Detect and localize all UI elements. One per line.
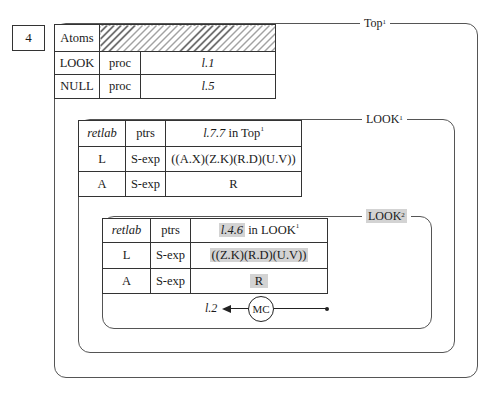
return-ref: l.7.7 [203,126,225,140]
table-row: A S-exp R [103,269,328,294]
mc-label: MC [252,303,269,315]
atom-type: proc [100,75,141,99]
figure-number-box: 4 [12,25,45,51]
atom-name: NULL [55,75,100,99]
var-name: L [79,147,126,172]
atom-type: proc [100,52,141,75]
var-value-highlighted: ((Z.K)(R.D)(U.V)) [210,248,309,262]
var-name: A [103,269,151,294]
ptrs-header: ptrs [151,219,191,243]
look1-header-row: retlab ptrs l.7.7 in Top1 [79,121,302,147]
frame-top-label: Top1 [360,16,390,30]
var-type: S-exp [126,147,166,172]
atoms-header: Atoms [55,25,100,52]
look2-table: retlab ptrs l.4.6 in LOOK1 L S-exp ((Z.K… [102,218,328,294]
var-value-cell: R [191,269,328,294]
atom-value: l.1 [141,52,276,75]
var-name: L [103,243,151,269]
frame-look1-sup: 1 [399,114,403,122]
frame-look2-name: LOOK [368,209,401,223]
var-type: S-exp [151,269,191,294]
atoms-table: Atoms LOOK proc l.1 NULL proc l.5 [54,24,276,99]
var-value-highlighted: R [250,274,268,288]
var-name: A [79,172,126,197]
table-row: L S-exp ((Z.K)(R.D)(U.V)) [103,243,328,269]
var-value-cell: ((Z.K)(R.D)(U.V)) [191,243,328,269]
table-row: NULL proc l.5 [55,75,276,99]
return-frame: in Top [225,126,260,140]
table-row: L S-exp ((A.X)(Z.K)(R.D)(U.V)) [79,147,302,172]
mc-node: MC [248,296,274,322]
frame-top-sup: 1 [383,18,387,26]
frame-look2-sup: 2 [401,211,405,219]
return-frame-sup: 1 [260,125,264,133]
look2-header-row: retlab ptrs l.4.6 in LOOK1 [103,219,328,243]
var-type: S-exp [151,243,191,269]
var-value: ((A.X)(Z.K)(R.D)(U.V)) [166,147,302,172]
right-endpoint-dot-icon [325,307,329,311]
retlab-header: retlab [79,121,126,147]
frame-top-name: Top [364,16,383,30]
atom-name: LOOK [55,52,100,75]
figure-number: 4 [25,30,32,46]
return-frame: in LOOK [245,223,296,237]
return-label: l.2 [205,301,217,316]
frame-look1-name: LOOK [366,112,399,126]
return-ref-highlighted: l.4.6 [219,223,245,237]
left-arrow-line [228,308,249,309]
frame-look2-label: LOOK2 [362,209,411,223]
atom-value: l.5 [141,75,276,99]
atoms-header-row: Atoms [55,25,276,52]
table-row: A S-exp R [79,172,302,197]
table-row: LOOK proc l.1 [55,52,276,75]
return-frame-sup: 1 [296,222,300,230]
var-type: S-exp [126,172,166,197]
right-arrow-line [274,308,326,309]
look1-table: retlab ptrs l.7.7 in Top1 L S-exp ((A.X)… [78,120,302,197]
atoms-hatched-cell [100,25,276,52]
frame-look1-label: LOOK1 [362,112,407,126]
var-value: R [166,172,302,197]
return-location-header: l.7.7 in Top1 [166,121,302,147]
return-location-header: l.4.6 in LOOK1 [191,219,328,243]
frame-look2-highlight: LOOK2 [366,209,407,223]
ptrs-header: ptrs [126,121,166,147]
retlab-header: retlab [103,219,151,243]
